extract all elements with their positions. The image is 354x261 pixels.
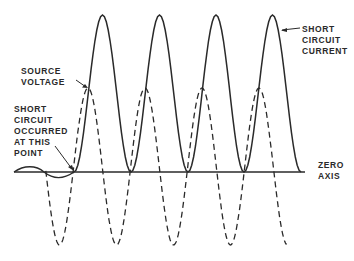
short-circuit-current-wave bbox=[74, 15, 301, 172]
short-circuit-occurred-label: SHORT CIRCUIT OCCURRED AT THIS POINT bbox=[14, 104, 68, 159]
current-arrow bbox=[281, 28, 300, 32]
zero-axis-label: ZERO AXIS bbox=[318, 160, 344, 182]
source-voltage-wave bbox=[46, 88, 287, 245]
source-voltage-arrow bbox=[76, 80, 88, 88]
short-circuit-current-label: SHORT CIRCUIT CURRENT bbox=[302, 24, 348, 57]
source-voltage-label: SOURCE VOLTAGE bbox=[21, 66, 65, 88]
